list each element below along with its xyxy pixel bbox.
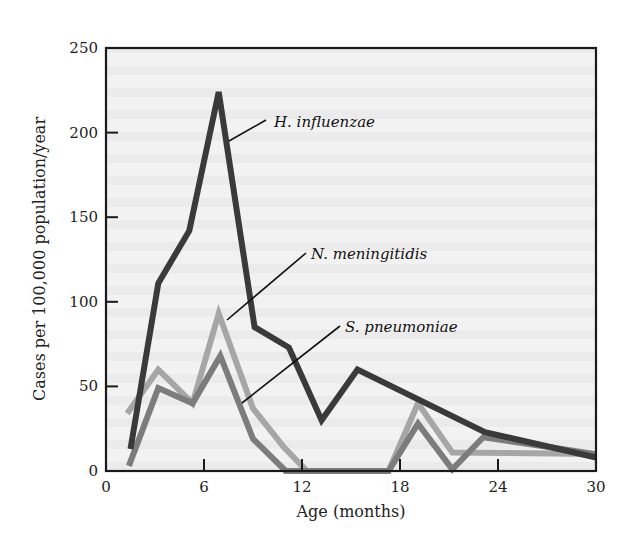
x-tick-label: 12 — [292, 478, 311, 496]
x-axis-title: Age (months) — [296, 502, 406, 521]
y-axis-title: Cases per 100,000 population/year — [30, 117, 49, 401]
x-tick-label: 24 — [488, 478, 507, 496]
x-tick-label: 0 — [101, 478, 111, 496]
x-tick-label: 6 — [199, 478, 209, 496]
label-h-influenzae: H. influenzae — [273, 113, 375, 131]
label-s-pneumoniae: S. pneumoniae — [345, 318, 458, 336]
chart: H. influenzae N. meningitidis S. pneumon… — [0, 0, 639, 558]
y-tick-label: 150 — [69, 208, 98, 226]
y-tick-label: 50 — [79, 377, 98, 395]
y-tick-label: 200 — [69, 124, 98, 142]
label-n-meningitidis: N. meningitidis — [310, 245, 428, 263]
y-tick-label: 250 — [69, 39, 98, 57]
y-tick-label: 100 — [69, 293, 98, 311]
x-tick-label: 30 — [586, 478, 605, 496]
x-tick-label: 18 — [390, 478, 409, 496]
y-tick-label: 0 — [88, 462, 98, 480]
